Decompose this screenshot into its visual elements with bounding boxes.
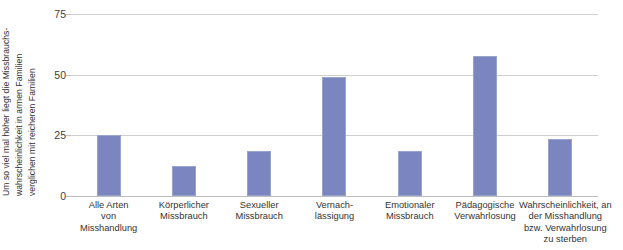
bar-wahrscheinlichkeit-zu-sterben[interactable] [548, 139, 572, 196]
y-axis-title-line-2: wahrscheinlichkeit in armen Familien [13, 0, 26, 196]
bar-slot-2 [146, 14, 221, 196]
x-label-line: der Misshandlung [507, 211, 623, 222]
axis-baseline [71, 196, 598, 197]
y-axis-title: Um so viel mal höher liegt die Missbrauc… [0, 0, 40, 196]
bar-slot-7 [523, 14, 598, 196]
y-tick-label-50: 50 [42, 70, 66, 80]
bar-chart: Um so viel mal höher liegt die Missbrauc… [0, 0, 623, 250]
y-tick-label-25: 25 [42, 130, 66, 140]
bar-slot-1 [71, 14, 146, 196]
x-axis-labels: Alle Arten von Misshandlung Körperlicher… [71, 200, 598, 250]
x-label-wahrscheinlichkeit-zu-sterben: Wahrscheinlichkeit, an der Misshandlung … [507, 200, 623, 246]
bar-series [71, 14, 598, 196]
bar-sexueller-missbrauch[interactable] [247, 151, 271, 196]
x-label-line: Wahrscheinlichkeit, an [507, 200, 623, 211]
y-axis-title-line-3: verglichen mit reicheren Familien [26, 0, 39, 196]
y-axis-ticks: 75 50 25 0 [40, 14, 66, 196]
plot-area [71, 14, 598, 196]
bar-alle-arten-von-misshandlung[interactable] [97, 135, 121, 196]
y-tick-label-75: 75 [42, 9, 66, 19]
y-axis-title-line-1: Um so viel mal höher liegt die Missbrauc… [0, 0, 13, 196]
x-label-line: Misshandlung [61, 223, 157, 234]
x-label-line: zu sterben [507, 234, 623, 245]
bar-koerperlicher-missbrauch[interactable] [172, 166, 196, 196]
bar-slot-4 [297, 14, 372, 196]
bar-emotionaler-missbrauch[interactable] [398, 151, 422, 196]
x-label-line: bzw. Verwahrlosung [507, 223, 623, 234]
bar-vernachlaessigung[interactable] [322, 77, 346, 196]
bar-slot-5 [372, 14, 447, 196]
bar-paedagogische-verwahrlosung[interactable] [473, 56, 497, 196]
bar-slot-6 [447, 14, 522, 196]
bar-slot-3 [222, 14, 297, 196]
